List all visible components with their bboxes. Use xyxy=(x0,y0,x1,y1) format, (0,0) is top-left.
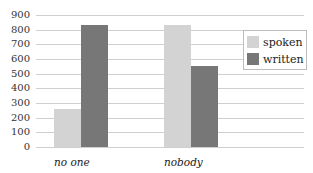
y-tick-label: 900 xyxy=(0,10,30,20)
y-tick-label: 800 xyxy=(0,25,30,35)
y-tick-label: 500 xyxy=(0,69,30,79)
gridline xyxy=(36,15,304,16)
legend: spoken written xyxy=(243,30,307,70)
legend-label-written: written xyxy=(263,53,304,66)
bar-chart: 0100200300400500600700800900 no onenobod… xyxy=(0,0,313,173)
y-tick-label: 200 xyxy=(0,113,30,123)
x-tick-label: nobody xyxy=(164,156,203,168)
legend-item-written: written xyxy=(247,52,304,66)
legend-swatch-written xyxy=(247,53,259,65)
bar-spoken xyxy=(164,25,191,147)
y-tick-label: 300 xyxy=(0,98,30,108)
gridline xyxy=(36,147,304,148)
y-tick-label: 600 xyxy=(0,54,30,64)
legend-item-spoken: spoken xyxy=(247,35,303,49)
y-tick-label: 100 xyxy=(0,127,30,137)
bar-written xyxy=(81,25,108,147)
legend-swatch-spoken xyxy=(247,36,259,48)
y-tick-label: 400 xyxy=(0,83,30,93)
legend-label-spoken: spoken xyxy=(263,36,303,49)
x-tick-label: no one xyxy=(54,156,90,168)
bar-written xyxy=(191,66,218,147)
y-tick-label: 0 xyxy=(0,142,30,152)
bar-spoken xyxy=(54,109,81,147)
y-tick-label: 700 xyxy=(0,39,30,49)
